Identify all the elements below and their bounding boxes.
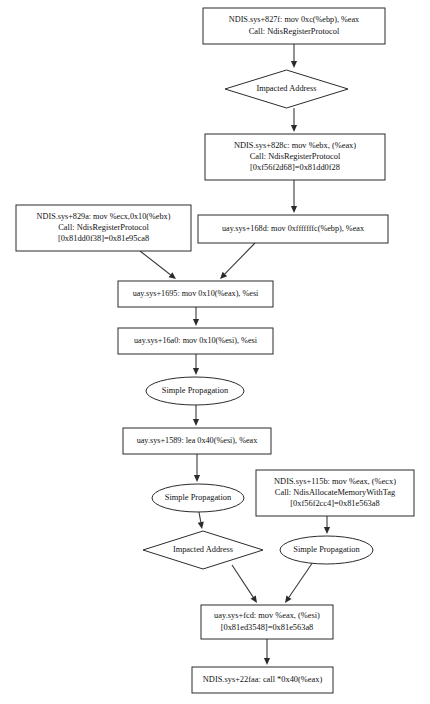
node-text-line: Simple Propagation — [162, 386, 229, 395]
edge-arrowhead-icon — [324, 527, 330, 534]
edge-n8-n9 — [193, 405, 199, 426]
edge-n13-n14 — [285, 562, 313, 603]
node-ndis-827f[interactable]: NDIS.sys+827f: mov 0xc(%ebp), %eaxCall: … — [203, 8, 385, 44]
edge-n12-n14 — [232, 565, 257, 603]
edge-arrowhead-icon — [169, 272, 176, 279]
node-impacted-address-2[interactable]: Impacted Address — [143, 531, 263, 569]
edge-arrowhead-icon — [291, 61, 297, 68]
node-text-line: Simple Propagation — [165, 493, 232, 502]
node-uay-168d[interactable]: uay.sys+168d: mov 0xfffffffc(%ebp), %eax — [198, 215, 388, 243]
edge-n14-n15 — [264, 639, 270, 665]
edge-n7-n8 — [193, 354, 199, 375]
edge-n6-n7 — [193, 307, 199, 326]
node-text-line: Call: NdisRegisterProtocol — [249, 27, 340, 36]
edge-n11-n13 — [324, 516, 330, 534]
node-text-line: [0x81ed3548]=0x81e563a8 — [221, 623, 314, 632]
edge-n2-n3 — [291, 108, 297, 132]
edge-n1-n2 — [291, 44, 297, 68]
node-uay-1695[interactable]: uay.sys+1695: mov 0x10(%eax), %esi — [118, 281, 273, 307]
node-ndis-22faa[interactable]: NDIS.sys+22faa: call *0x40(%eax) — [192, 667, 333, 693]
edge-arrowhead-icon — [198, 522, 204, 529]
edge-n10-n12 — [198, 512, 204, 529]
node-text-line: [0xf56f2cc4]=0x81e563a8 — [290, 499, 379, 508]
node-text-line: NDIS.sys+115b: mov %eax, (%ecx) — [274, 477, 396, 486]
edge-line — [289, 562, 313, 597]
edge-line — [225, 243, 255, 274]
edge-arrowhead-icon — [251, 595, 257, 603]
edge-arrowhead-icon — [291, 206, 297, 213]
edge-arrowhead-icon — [193, 419, 199, 426]
node-text-line: Call: NdisRegisterProtocol — [250, 152, 341, 161]
edge-n9-n10 — [194, 454, 200, 482]
edge-arrowhead-icon — [194, 475, 200, 482]
edge-n4-n6 — [140, 251, 176, 279]
edge-arrowhead-icon — [193, 368, 199, 375]
edge-n3-n5 — [291, 180, 297, 213]
node-text-line: Call: NdisRegisterProtocol — [58, 223, 149, 232]
node-text-line: NDIS.sys+827f: mov 0xc(%ebp), %eax — [229, 15, 359, 24]
edge-arrowhead-icon — [264, 658, 270, 665]
node-text-line: uay.sys+fcd: mov %eax, (%esi) — [214, 611, 320, 620]
node-uay-16a0[interactable]: uay.sys+16a0: mov 0x10(%esi), %esi — [118, 328, 273, 354]
node-text-line: Impacted Address — [256, 84, 316, 93]
node-text-line: Simple Propagation — [293, 545, 360, 554]
edge-line — [232, 565, 253, 597]
node-text-line: Call: NdisAllocateMemoryWithTag — [275, 488, 396, 497]
edge-arrowhead-icon — [291, 125, 297, 132]
node-uay-1589[interactable]: uay.sys+1589: lea 0x40(%esi), %eax — [123, 428, 271, 454]
node-text-line: NDIS.sys+22faa: call *0x40(%eax) — [203, 675, 323, 684]
node-ndis-829a[interactable]: NDIS.sys+829a: mov %ecx,0x10(%ebx)Call: … — [16, 205, 191, 251]
node-simple-propagation-1[interactable]: Simple Propagation — [146, 377, 244, 405]
node-text-line: uay.sys+16a0: mov 0x10(%esi), %esi — [134, 336, 258, 345]
node-ndis-115b[interactable]: NDIS.sys+115b: mov %eax, (%ecx)Call: Ndi… — [256, 470, 414, 516]
edge-line — [199, 512, 201, 522]
node-simple-propagation-3[interactable]: Simple Propagation — [280, 536, 373, 564]
edge-arrowhead-icon — [193, 319, 199, 326]
node-text-line: [0xf56f2d68]=0x81dd0f28 — [250, 163, 340, 172]
nodes-layer: NDIS.sys+827f: mov 0xc(%ebp), %eaxCall: … — [16, 8, 414, 693]
node-uay-fcd[interactable]: uay.sys+fcd: mov %eax, (%esi)[0x81ed3548… — [201, 605, 333, 639]
edge-line — [140, 251, 170, 275]
node-text-line: [0x81dd0f38]=0x81e95ca8 — [58, 234, 149, 243]
node-simple-propagation-2[interactable]: Simple Propagation — [152, 484, 244, 512]
node-impacted-address-1[interactable]: Impacted Address — [225, 70, 348, 108]
node-text-line: uay.sys+1695: mov 0x10(%eax), %esi — [133, 289, 259, 298]
node-text-line: NDIS.sys+828c: mov %ebx, (%eax) — [234, 141, 356, 150]
node-text-line: Impacted Address — [173, 545, 233, 554]
node-text-line: uay.sys+168d: mov 0xfffffffc(%ebp), %eax — [222, 224, 364, 233]
flowchart-canvas: NDIS.sys+827f: mov 0xc(%ebp), %eaxCall: … — [0, 0, 430, 704]
edge-n5-n6 — [220, 243, 255, 279]
edge-arrowhead-icon — [285, 595, 292, 603]
flowchart-svg: NDIS.sys+827f: mov 0xc(%ebp), %eaxCall: … — [0, 0, 430, 704]
node-text-line: uay.sys+1589: lea 0x40(%esi), %eax — [137, 436, 258, 445]
node-text-line: NDIS.sys+829a: mov %ecx,0x10(%ebx) — [37, 212, 171, 221]
node-ndis-828c[interactable]: NDIS.sys+828c: mov %ebx, (%eax)Call: Ndi… — [205, 134, 385, 180]
